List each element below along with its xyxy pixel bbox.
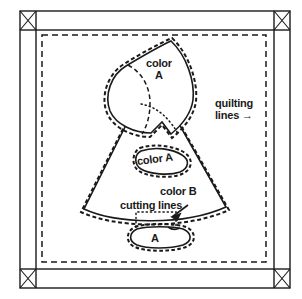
label-color-a-bonnet: color A bbox=[146, 58, 172, 81]
label-shoe-a: A bbox=[151, 233, 159, 245]
label-quilting-lines-line2: lines → bbox=[215, 110, 253, 122]
label-quilting-lines-line1: quilting bbox=[215, 97, 253, 109]
quilting-lines-arrow-icon: → bbox=[242, 109, 253, 121]
shoe-sewing-line bbox=[131, 227, 191, 248]
label-cutting-lines: cutting lines bbox=[120, 200, 182, 212]
label-color-a-bonnet-line2: A bbox=[146, 70, 172, 82]
label-quilting-lines-line2-text: lines bbox=[215, 109, 239, 121]
label-color-b: color B bbox=[160, 186, 197, 198]
bonnet-sewing-line bbox=[108, 41, 193, 134]
pattern-line-drawing bbox=[0, 0, 302, 299]
label-color-a-bonnet-line1: color bbox=[146, 57, 172, 69]
label-quilting-lines: quilting lines → bbox=[215, 98, 253, 121]
quilt-pattern-figure: color A quilting lines → color A color B… bbox=[0, 0, 302, 299]
